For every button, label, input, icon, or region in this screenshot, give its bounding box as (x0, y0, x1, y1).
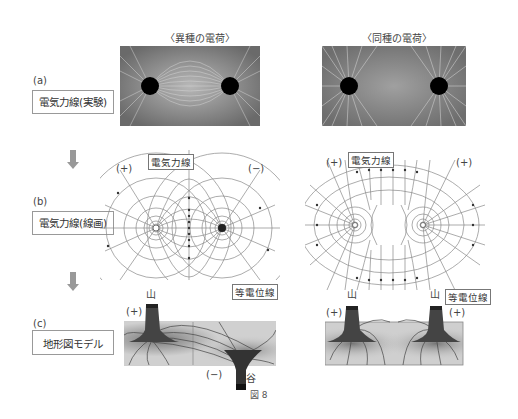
minus-charge-label: (−) (248, 163, 264, 174)
plus-charge-label-left: (+) (116, 163, 132, 174)
arrow-down-icon (67, 272, 79, 291)
plus-label-terrain-left: (+) (126, 306, 142, 317)
row-marker-c: (c) (33, 318, 46, 329)
minus-label-terrain: (−) (206, 369, 222, 380)
row-label-a: 電気力線(実験) (32, 90, 114, 114)
mountain-label-right-1: 山 (347, 286, 357, 301)
row-marker-a: (a) (33, 75, 47, 86)
terrain-model-same (325, 300, 465, 370)
mountain-label-left: 山 (146, 286, 156, 301)
photo-opposite-charges (120, 46, 260, 126)
equipotential-callout-left: 等電位線 (232, 284, 278, 300)
field-line-callout-left: 電気力線 (148, 154, 194, 170)
plus-label-terrain-right-2: (+) (449, 307, 465, 318)
field-line-drawing-same (305, 160, 485, 290)
arrow-down-icon (67, 150, 79, 169)
plus-charge-label-right-2: (+) (456, 157, 472, 168)
caption-opposite-charges: 〈異種の電荷〉 (165, 30, 235, 45)
plus-label-terrain-right-1: (+) (326, 307, 342, 318)
figure-number: 図 8 (250, 388, 268, 401)
caption-same-charges: 〈同種の電荷〉 (362, 30, 432, 45)
row-marker-b: (b) (33, 196, 47, 207)
field-line-callout-right: 電気力線 (348, 152, 394, 168)
valley-label: 谷 (246, 370, 256, 385)
row-label-c: 地形図モデル (32, 330, 114, 355)
mountain-label-right-2: 山 (430, 286, 440, 301)
terrain-model-opposite (124, 300, 276, 400)
photo-same-charges (322, 46, 466, 126)
plus-charge-label-right-1: (+) (326, 157, 342, 168)
